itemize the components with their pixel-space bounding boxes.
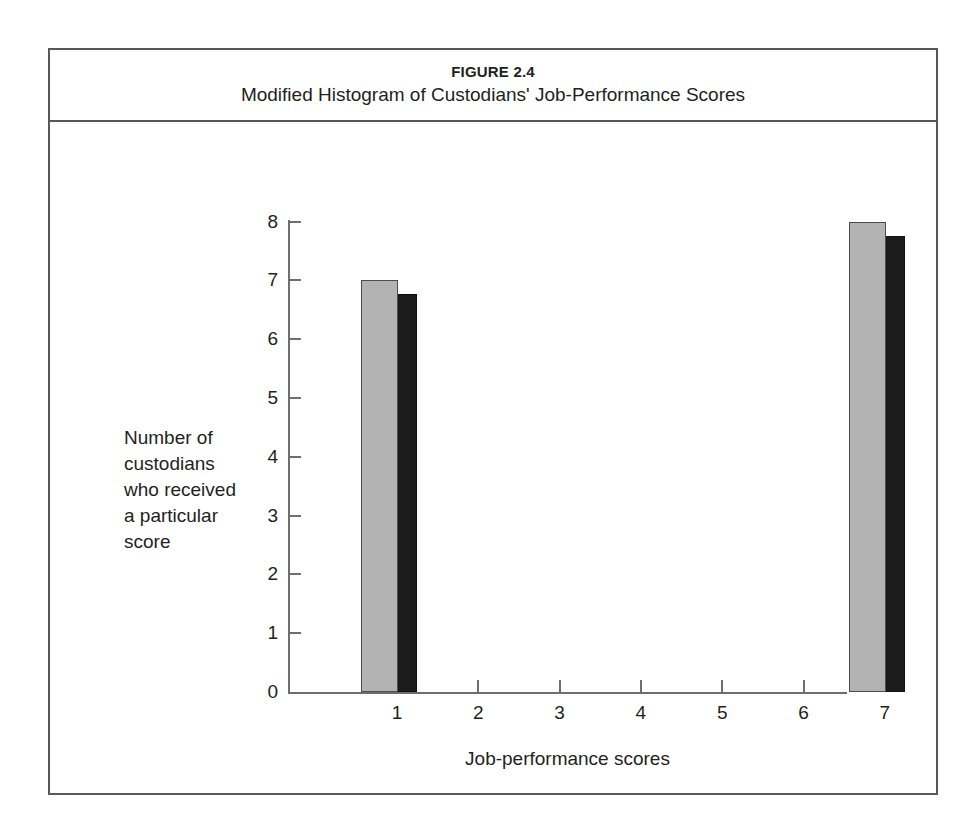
x-axis-tick [477,680,479,692]
bar-front-face [849,222,886,692]
y-axis-tick-label-text: 7 [248,270,278,289]
y-axis-tick-label: 0 [242,682,278,701]
x-axis-label: Job-performance scores [288,747,847,771]
figure-root: FIGURE 2.4 Modified Histogram of Custodi… [0,0,975,839]
figure-number: FIGURE 2.4 [451,62,535,82]
y-axis-tick [290,279,301,281]
y-axis-tick [290,456,301,458]
x-axis-tick-label: 3 [540,702,580,724]
y-axis-tick [290,221,301,223]
y-axis-tick-label-text: 2 [248,564,278,583]
y-axis-tick-label: 8 [242,212,278,231]
y-axis-tick-label: 5 [242,388,278,407]
figure-frame: FIGURE 2.4 Modified Histogram of Custodi… [48,48,938,795]
x-axis-tick-label: 5 [702,702,742,724]
y-axis-label: Number of custodians who received a part… [124,425,264,555]
y-axis-tick-label: 1 [242,623,278,642]
x-axis-tick-label: 1 [377,702,417,724]
x-axis-tick [721,680,723,692]
y-axis-tick-label: 7 [242,270,278,289]
x-axis-line [288,692,847,694]
y-axis-label-line-5: score [124,529,264,555]
y-axis-tick-label: 4 [242,447,278,466]
x-axis-tick-label: 2 [458,702,498,724]
y-axis-tick-label: 6 [242,329,278,348]
plot-area: Number of custodians who received a part… [50,122,936,793]
figure-title: Modified Histogram of Custodians' Job-Pe… [241,82,745,108]
x-axis-tick [803,680,805,692]
y-axis-tick [290,515,301,517]
x-axis-tick [640,680,642,692]
y-axis-tick [290,397,301,399]
figure-header: FIGURE 2.4 Modified Histogram of Custodi… [50,50,936,122]
x-axis-tick-label: 6 [784,702,824,724]
y-axis-tick-label-text: 5 [248,388,278,407]
x-axis-tick [559,680,561,692]
bar-shadow-face [397,294,417,692]
y-axis-tick-label: 3 [242,506,278,525]
y-axis-tick-label-text: 1 [248,623,278,642]
y-axis-tick-label: 2 [242,564,278,583]
x-axis-tick-label: 7 [865,702,905,724]
x-axis-tick-label: 4 [621,702,661,724]
y-axis-tick [290,573,301,575]
y-axis-tick-label-text: 0 [248,682,278,701]
y-axis-tick-label-text: 6 [248,329,278,348]
bar-shadow-face [885,236,905,692]
y-axis-tick-label-text: 8 [248,212,278,231]
y-axis-tick-label-text: 4 [248,447,278,466]
y-axis-tick [290,632,301,634]
y-axis-label-line-3: who received [124,477,264,503]
y-axis-tick [290,338,301,340]
y-axis-tick-label-text: 3 [248,506,278,525]
bar-front-face [361,280,398,692]
